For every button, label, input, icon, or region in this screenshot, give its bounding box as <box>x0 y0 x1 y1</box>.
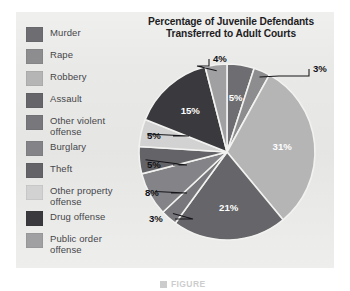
legend-item-burglary: Burglary <box>26 140 131 159</box>
figure-root: Murder Rape Robbery Assault Other violen… <box>0 0 350 291</box>
legend-swatch-other-violent-offense <box>26 115 43 130</box>
legend-swatch-other-property-offense <box>26 185 43 200</box>
legend-label-burglary: Burglary <box>50 140 86 153</box>
legend-label-rape: Rape <box>50 48 73 61</box>
legend-label-other-violent-offense: Other violent offense <box>50 114 105 137</box>
chart-title: Percentage of Juvenile Defendants Transf… <box>131 16 331 41</box>
legend-item-theft: Theft <box>26 162 131 181</box>
legend-swatch-drug-offense <box>26 211 43 226</box>
legend-item-public-order-offense: Public order offense <box>26 232 131 255</box>
figure-caption: FIGURE <box>0 277 350 291</box>
legend-item-assault: Assault <box>26 92 131 111</box>
pie-slice-label: 5% <box>229 92 243 103</box>
pie-slice-label: 8% <box>145 187 159 198</box>
pie-slice-label: 3% <box>149 213 163 224</box>
legend-swatch-burglary <box>26 141 43 156</box>
legend-item-rape: Rape <box>26 48 131 67</box>
pie-slice-label: 3% <box>313 63 327 74</box>
pie-slice-label: 21% <box>219 202 239 213</box>
pie-slice-label: 5% <box>147 159 161 170</box>
legend-label-drug-offense: Drug offense <box>50 210 105 223</box>
pie-slice-label: 15% <box>181 105 201 116</box>
legend-item-other-property-offense: Other property offense <box>26 184 131 207</box>
legend-swatch-murder <box>26 27 43 42</box>
legend-swatch-assault <box>26 93 43 108</box>
chart-title-line1: Percentage of Juvenile Defendants <box>131 16 331 28</box>
legend-label-public-order-offense: Public order offense <box>50 232 102 255</box>
legend-label-murder: Murder <box>50 26 81 39</box>
legend-item-robbery: Robbery <box>26 70 131 89</box>
chart-title-line2: Transferred to Adult Courts <box>131 28 331 40</box>
legend-swatch-robbery <box>26 71 43 86</box>
pie-chart: 5%3%31%21%3%8%5%5%15%4% <box>131 52 331 252</box>
legend-item-other-violent-offense: Other violent offense <box>26 114 131 137</box>
legend-swatch-theft <box>26 163 43 178</box>
legend-label-robbery: Robbery <box>50 70 87 83</box>
legend-swatch-rape <box>26 49 43 64</box>
legend-label-assault: Assault <box>50 92 82 105</box>
legend-swatch-public-order-offense <box>26 233 43 248</box>
caption-text: FIGURE <box>171 279 206 289</box>
pie-slice-label: 31% <box>273 141 293 152</box>
pie-chart-svg: 5%3%31%21%3%8%5%5%15%4% <box>131 52 331 252</box>
chart-area: Percentage of Juvenile Defendants Transf… <box>131 14 331 258</box>
legend-label-theft: Theft <box>50 162 72 175</box>
legend-label-other-property-offense: Other property offense <box>50 184 113 207</box>
chart-legend: Murder Rape Robbery Assault Other violen… <box>26 26 131 258</box>
legend-item-murder: Murder <box>26 26 131 45</box>
pie-slice-label: 5% <box>147 130 161 141</box>
pie-slice-label: 4% <box>213 53 227 64</box>
legend-item-drug-offense: Drug offense <box>26 210 131 229</box>
caption-marker-icon <box>160 281 167 288</box>
